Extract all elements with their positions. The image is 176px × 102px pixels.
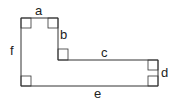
right-angle-marker-inner-corner xyxy=(58,49,68,60)
label-e: e xyxy=(94,86,101,101)
right-angle-marker-bottom-left xyxy=(21,76,31,86)
label-d: d xyxy=(161,65,168,80)
right-angle-marker-top-right xyxy=(48,18,58,28)
label-f: f xyxy=(10,43,14,58)
right-angle-marker-right-bottom xyxy=(148,76,158,86)
l-shape-outline xyxy=(21,18,158,86)
l-shape-diagram: a b c d e f xyxy=(0,0,176,102)
right-angle-marker-right-top xyxy=(148,60,158,70)
label-b: b xyxy=(60,27,67,42)
label-a: a xyxy=(35,3,43,18)
right-angle-marker-top-left xyxy=(21,18,31,28)
label-c: c xyxy=(101,45,108,60)
